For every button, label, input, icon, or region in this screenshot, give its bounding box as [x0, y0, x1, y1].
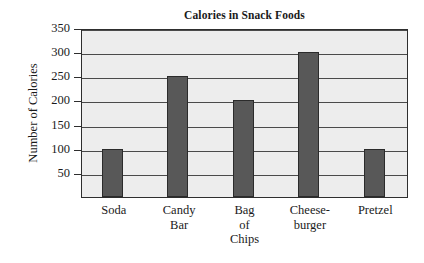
gridline — [82, 30, 407, 31]
y-tick-label: 350 — [30, 22, 70, 34]
gridline — [82, 54, 407, 55]
y-tick-mark — [74, 77, 81, 78]
chart-title: Calories in Snack Foods — [81, 8, 408, 22]
bar — [298, 52, 319, 197]
bar-chart-figure: Calories in Snack Foods Number of Calori… — [0, 0, 424, 263]
bar — [102, 149, 123, 197]
gridline — [82, 78, 407, 79]
y-tick-label: 100 — [30, 143, 70, 155]
plot-area — [81, 29, 408, 198]
y-tick-label: 300 — [30, 46, 70, 58]
y-tick-mark — [74, 126, 81, 127]
y-tick-label: 200 — [30, 94, 70, 106]
x-tick-label: Pretzel — [333, 203, 418, 218]
bar — [167, 76, 188, 197]
y-tick-mark — [74, 53, 81, 54]
bar — [364, 149, 385, 197]
y-tick-mark — [74, 29, 81, 30]
y-tick-mark — [74, 174, 81, 175]
y-tick-mark — [74, 150, 81, 151]
y-tick-mark — [74, 101, 81, 102]
y-tick-label: 150 — [30, 119, 70, 131]
y-tick-label: 250 — [30, 70, 70, 82]
bar — [233, 100, 254, 197]
y-tick-label: 50 — [30, 167, 70, 179]
